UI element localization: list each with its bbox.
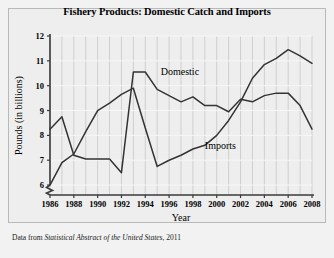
line-chart-canvas: 6789101112 19861988199019921994199619982… — [0, 0, 334, 258]
x-axis-tick-label: 2004 — [256, 199, 274, 209]
series-label-domestic: Domestic — [161, 66, 200, 77]
x-axis-tick-label: 1998 — [184, 199, 201, 209]
source-note-prefix: Data from — [12, 233, 45, 242]
series-label-imports: Imports — [205, 140, 236, 151]
y-axis-tick-label: 11 — [36, 56, 44, 66]
chart-axes — [47, 34, 315, 195]
x-axis-tick-label: 1992 — [113, 199, 130, 209]
x-axis-tick-label: 1986 — [42, 199, 59, 209]
x-axis-tick-label: 2006 — [280, 199, 297, 209]
x-axis-tick-label: 2008 — [304, 199, 321, 209]
x-axis-tick-labels: 1986198819901992199419961998200020022004… — [42, 195, 321, 209]
source-note-title: Statistical Abstract of the United State… — [45, 233, 163, 242]
x-axis-tick-label: 1996 — [161, 199, 178, 209]
x-axis-tick-label: 2002 — [232, 199, 249, 209]
source-note: Data from Statistical Abstract of the Un… — [12, 233, 181, 242]
y-axis-tick-label: 7 — [40, 155, 45, 165]
y-axis-tick-label: 8 — [40, 130, 44, 140]
y-axis-tick-label: 12 — [36, 31, 45, 41]
y-axis-tick-label: 10 — [36, 81, 45, 91]
y-axis-tick-label: 6 — [40, 180, 44, 190]
chart-figure: Fishery Products: Domestic Catch and Imp… — [0, 0, 334, 258]
source-note-suffix: , 2011 — [162, 233, 180, 242]
x-axis-tick-label: 1990 — [89, 199, 106, 209]
series-inline-labels: DomesticImports — [161, 66, 236, 152]
x-axis-tick-label: 1994 — [137, 199, 155, 209]
y-axis-tick-label: 9 — [40, 106, 44, 116]
y-axis-tick-labels: 6789101112 — [36, 31, 51, 190]
x-axis-tick-label: 2000 — [208, 199, 225, 209]
y-axis-title: Pounds (in billions) — [13, 76, 25, 155]
x-axis-tick-label: 1988 — [65, 199, 82, 209]
x-axis-title: Year — [172, 212, 191, 223]
